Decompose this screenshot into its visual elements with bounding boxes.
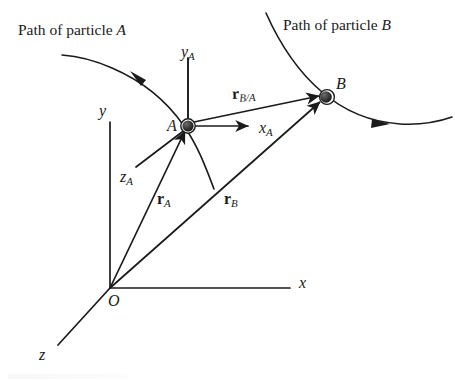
vector-rb-subscript: B	[231, 197, 238, 209]
vector-ra-label: rA	[157, 191, 171, 209]
vector-rba-label: rB/A	[232, 85, 256, 104]
axis-z-label: z	[39, 347, 45, 363]
path-of-particle-b-label: Path of particle B	[283, 17, 391, 33]
page-edge-artifact	[8, 374, 128, 379]
physics-diagram-figure: Path of particle A Path of particle B y …	[0, 0, 455, 380]
path-a-letter-text: A	[117, 21, 126, 38]
position-vectors	[110, 96, 320, 288]
axis-za-subscript: A	[126, 175, 133, 187]
path-b-prefix-text: Path of particle	[283, 16, 382, 33]
path-b-arrowhead	[371, 119, 390, 128]
particle-b-marker	[320, 90, 335, 105]
axis-xa-subscript: A	[266, 126, 273, 138]
particle-a-marker	[181, 119, 195, 133]
axis-x-label: x	[299, 275, 306, 291]
axis-y-label: y	[99, 103, 106, 119]
axis-ya-subscript: A	[188, 50, 195, 62]
axis-xa-label: xA	[259, 120, 273, 138]
vector-ra-subscript: A	[164, 197, 171, 209]
origin-label: O	[108, 293, 120, 309]
axis-za-label: zA	[120, 169, 133, 187]
path-b-letter-text: B	[382, 16, 391, 33]
vector-rba-line	[194, 96, 319, 122]
path-of-particle-a-label: Path of particle A	[18, 22, 126, 38]
vector-rb-line	[110, 102, 320, 288]
vector-ra-line	[110, 131, 185, 288]
axis-za-line	[136, 129, 186, 167]
axis-ya-label: yA	[181, 44, 195, 62]
path-a-prefix-text: Path of particle	[18, 21, 117, 38]
translating-frame-axes-at-a	[136, 58, 248, 167]
point-a-label: A	[167, 118, 177, 134]
point-b-label: B	[336, 76, 346, 92]
vector-rba-subscript: B/A	[239, 91, 256, 104]
axis-z-line	[58, 288, 110, 345]
vector-rb-label: rB	[224, 191, 238, 209]
